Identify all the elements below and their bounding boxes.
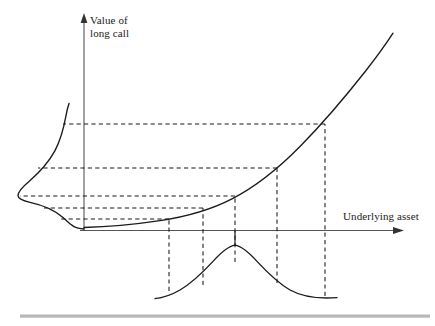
x-axis-label: Underlying asset <box>343 210 419 223</box>
y-axis-label: Value of long call <box>90 14 129 39</box>
option-value-diagram: Value of long call Underlying asset <box>0 0 435 326</box>
long-call-value-curve <box>84 33 393 227</box>
footer-rule <box>20 315 430 318</box>
call-value-distribution-curve <box>18 103 84 229</box>
x-axis-arrowhead <box>393 227 404 234</box>
projection-lines-group <box>20 124 325 296</box>
y-axis-arrowhead <box>81 13 88 23</box>
diagram-canvas <box>0 0 435 326</box>
asset-price-distribution-curve <box>155 245 337 298</box>
